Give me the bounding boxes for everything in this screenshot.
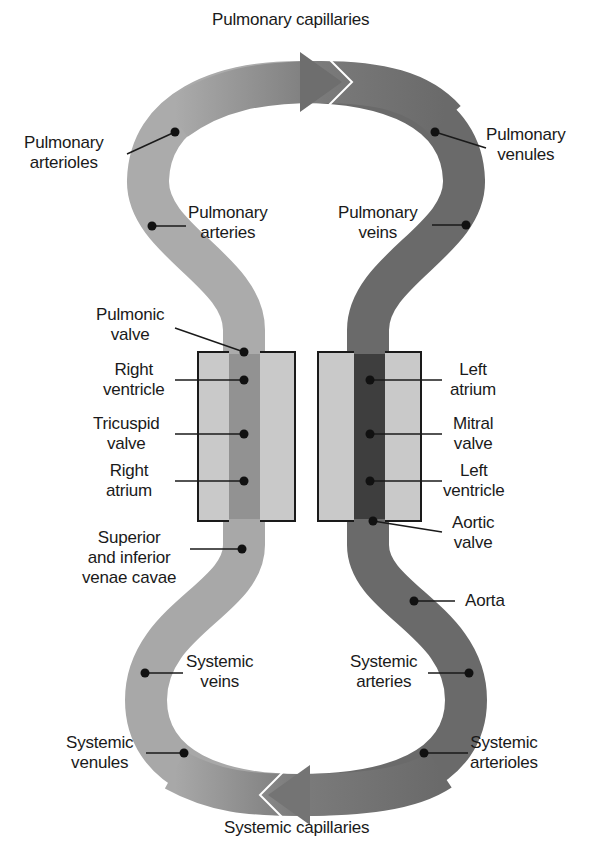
label-left-atrium: Left atrium: [450, 360, 496, 400]
label-systemic-arteries: Systemic arteries: [350, 652, 417, 692]
label-right-atrium: Right atrium: [106, 461, 152, 501]
label-systemic-venules: Systemic venules: [66, 733, 133, 773]
label-aortic-valve: Aortic valve: [452, 513, 494, 553]
label-right-ventricle: Right ventricle: [103, 360, 165, 400]
label-venae-cavae: Superior and inferior venae cavae: [82, 528, 176, 588]
label-pulmonary-arteries: Pulmonary arteries: [188, 203, 267, 243]
label-systemic-veins: Systemic veins: [186, 652, 253, 692]
label-pulmonary-arterioles: Pulmonary arterioles: [24, 133, 103, 173]
label-mitral-valve: Mitral valve: [453, 414, 493, 454]
right-channel-bottom: [229, 519, 260, 533]
label-left-ventricle: Left ventricle: [443, 461, 505, 501]
label-pulmonary-veins: Pulmonary veins: [338, 203, 417, 243]
label-systemic-capillaries: Systemic capillaries: [224, 818, 369, 838]
left-channel-top: [354, 340, 385, 354]
label-systemic-arterioles: Systemic arterioles: [470, 733, 538, 773]
label-pulmonic-valve: Pulmonic valve: [96, 305, 164, 345]
label-pulmonary-venules: Pulmonary venules: [486, 125, 565, 165]
label-aorta: Aorta: [465, 591, 505, 611]
label-tricuspid-valve: Tricuspid valve: [93, 414, 160, 454]
label-pulmonary-capillaries: Pulmonary capillaries: [212, 10, 369, 30]
